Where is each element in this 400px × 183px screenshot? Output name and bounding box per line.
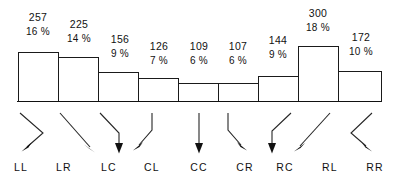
- bar-LR: [59, 58, 99, 102]
- value-label-CL: 126: [150, 40, 168, 52]
- pct-label-RR: 10 %: [349, 46, 373, 57]
- arrow-LR-line: [60, 113, 90, 147]
- value-label-RC: 144: [269, 34, 287, 46]
- pct-label-CR: 6 %: [229, 55, 247, 66]
- histogram-figure: 257 16 % 225 14 % 156 9 % 126 7 % 109 6 …: [0, 0, 400, 183]
- pct-label-LC: 9 %: [111, 48, 129, 59]
- arrow-RR-line: [351, 113, 372, 146]
- value-label-LL: 257: [29, 11, 47, 23]
- pct-label-LR: 14 %: [67, 33, 91, 44]
- arrow-CL: [133, 113, 152, 151]
- arrow-CL-head: [133, 142, 143, 151]
- bar-RC: [259, 77, 299, 102]
- arrow-LL-line: [20, 113, 43, 147]
- value-label-LC: 156: [111, 33, 129, 45]
- pct-label-CL: 7 %: [150, 55, 168, 66]
- arrow-LR: [60, 113, 95, 153]
- bar-LC: [99, 73, 139, 102]
- value-label-CR: 107: [229, 40, 247, 52]
- arrow-CC-head: [195, 143, 203, 154]
- arrow-CC: [195, 113, 203, 154]
- arrow-CR-head: [237, 142, 247, 151]
- bar-RL: [299, 47, 339, 102]
- bar-RR: [339, 72, 382, 102]
- arrow-RR: [351, 113, 372, 152]
- chart-canvas: 257 16 % 225 14 % 156 9 % 126 7 % 109 6 …: [0, 0, 400, 183]
- arrow-LC: [100, 113, 123, 154]
- category-labels-group: LL LR LC CL CC CR RC RL RR: [14, 161, 384, 173]
- arrow-CL-line: [139, 113, 152, 145]
- category-label-RC: RC: [276, 161, 294, 173]
- pct-label-RC: 9 %: [269, 49, 287, 60]
- bar-CC: [179, 84, 219, 102]
- arrow-RL-head: [294, 143, 305, 152]
- arrow-RC-head: [268, 143, 276, 154]
- bar-LL: [19, 53, 59, 102]
- arrow-RC-line: [272, 113, 291, 147]
- arrow-RL: [294, 113, 330, 152]
- arrow-LC-head: [115, 143, 123, 154]
- bar-CR: [219, 84, 259, 102]
- arrow-LL: [20, 113, 43, 152]
- category-label-CC: CC: [190, 161, 208, 173]
- value-label-CC: 109: [190, 40, 208, 52]
- pct-label-LL: 16 %: [26, 26, 50, 37]
- category-label-RL: RL: [322, 161, 338, 173]
- bar-CL: [139, 79, 179, 102]
- category-label-LC: LC: [101, 161, 117, 173]
- value-label-RL: 300: [309, 7, 327, 19]
- category-label-RR: RR: [366, 161, 384, 173]
- value-label-LR: 225: [70, 18, 88, 30]
- category-label-CR: CR: [236, 161, 254, 173]
- category-label-LL: LL: [14, 161, 28, 173]
- arrow-LL-head: [22, 143, 32, 152]
- value-label-RR: 172: [352, 31, 370, 43]
- category-label-CL: CL: [144, 161, 160, 173]
- arrow-CR: [228, 113, 247, 151]
- arrows-group: [20, 113, 372, 154]
- pct-label-RL: 18 %: [306, 22, 330, 33]
- arrow-CR-line: [228, 113, 241, 145]
- category-label-LR: LR: [56, 161, 72, 173]
- arrow-LC-line: [100, 113, 119, 147]
- arrow-RC: [268, 113, 291, 154]
- pct-label-CC: 6 %: [190, 55, 208, 66]
- arrow-RL-line: [300, 113, 330, 146]
